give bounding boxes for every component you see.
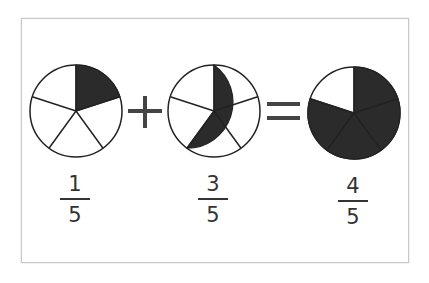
fraction-bar xyxy=(198,198,228,200)
pie-three-fifths xyxy=(168,65,260,157)
fraction-bar xyxy=(338,200,368,202)
fraction-label-four-fifths: 4 5 xyxy=(333,174,373,229)
denominator: 5 xyxy=(333,205,373,229)
numerator: 3 xyxy=(193,172,233,196)
equals-sign-icon xyxy=(267,102,300,120)
fraction-label-one-fifth: 1 5 xyxy=(55,172,95,227)
fraction-label-three-fifths: 3 5 xyxy=(193,172,233,227)
fraction-bar xyxy=(60,198,90,200)
denominator: 5 xyxy=(193,203,233,227)
numerator: 4 xyxy=(333,174,373,198)
pie-four-fifths xyxy=(308,67,400,159)
numerator: 1 xyxy=(55,172,95,196)
pie-one-fifth xyxy=(30,65,122,157)
plus-sign-icon xyxy=(128,96,162,128)
denominator: 5 xyxy=(55,203,95,227)
fraction-addition-figure xyxy=(0,0,429,283)
